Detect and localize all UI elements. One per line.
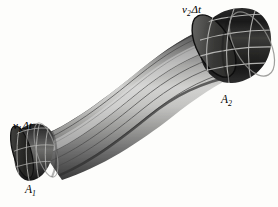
label-outlet-length-operator: Δt: [192, 3, 202, 15]
label-outlet-area-symbol: A: [221, 93, 228, 105]
label-inlet-area: A1: [25, 184, 36, 198]
label-inlet-length-subscript: 1: [18, 125, 22, 134]
flow-tube-illustration: [0, 0, 278, 207]
label-outlet-area: A2: [221, 94, 232, 108]
label-outlet-length-subscript: 2: [187, 9, 191, 18]
label-outlet-area-subscript: 2: [228, 99, 232, 108]
label-inlet-length: v1 Δt: [13, 120, 32, 134]
label-inlet-length-operator: Δt: [23, 119, 33, 131]
label-inlet-area-symbol: A: [25, 183, 32, 195]
flow-tube-figure: v1 Δt v2 Δt A1 A2: [0, 0, 278, 207]
label-outlet-length: v2 Δt: [182, 4, 201, 18]
label-inlet-area-subscript: 1: [32, 189, 36, 198]
